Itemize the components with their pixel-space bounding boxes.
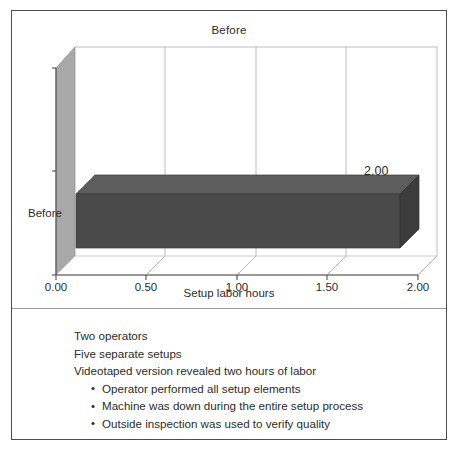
x-axis-title: Setup labor hours [12, 287, 446, 299]
note-line: Videotaped version revealed two hours of… [74, 362, 446, 380]
notes-panel: Two operators Five separate setups Video… [12, 310, 446, 441]
note-line: Two operators [74, 327, 446, 345]
category-axis-label: Before [18, 207, 72, 219]
list-item: Outside inspection was used to verify qu… [91, 415, 446, 433]
value-axis [56, 275, 418, 280]
note-bullet-list: Operator performed all setup elements Ma… [74, 380, 446, 433]
list-item: Machine was down during the entire setup… [91, 397, 446, 415]
figure-frame: Before [11, 10, 447, 440]
list-item: Operator performed all setup elements [91, 380, 446, 398]
bar-before[interactable] [76, 175, 419, 248]
note-line: Five separate setups [74, 345, 446, 363]
bar-front-face [76, 194, 400, 248]
bar-value-label: 2.00 [364, 164, 388, 178]
chart-panel: Before [12, 11, 446, 309]
plot-area [12, 11, 448, 309]
left-side-wall [56, 47, 75, 275]
category-axis [52, 68, 56, 275]
